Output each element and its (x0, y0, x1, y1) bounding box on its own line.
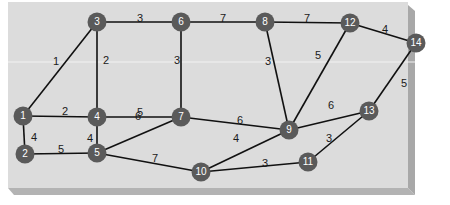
node-4: 4 (88, 108, 107, 127)
node-9: 9 (280, 121, 299, 140)
edge-weight-label: 2 (103, 54, 109, 66)
node-label: 8 (262, 16, 268, 27)
node-5: 5 (88, 144, 107, 163)
node-10: 10 (192, 163, 211, 182)
node-3: 3 (88, 13, 107, 32)
edge-weight-label: 3 (265, 55, 271, 67)
node-1: 1 (14, 107, 33, 126)
node-label: 3 (94, 16, 100, 27)
edge-weight-label: 5 (401, 77, 407, 89)
edge-weight-label: 7 (304, 12, 310, 24)
node-14: 14 (407, 34, 426, 53)
node-label: 7 (178, 111, 184, 122)
node-11: 11 (299, 153, 318, 172)
node-label: 12 (344, 17, 356, 28)
node-label: 9 (286, 124, 292, 135)
edge-weight-label: 4 (87, 132, 93, 144)
node-label: 6 (178, 16, 184, 27)
node-label: 11 (303, 156, 314, 167)
node-label: 5 (94, 147, 100, 158)
edge-weight-label: 4 (233, 132, 239, 144)
edge-weight-label: 7 (152, 152, 158, 164)
edge-weight-label: 7 (220, 12, 226, 24)
node-label: 1 (20, 110, 26, 121)
edge-weight-label: 5 (58, 143, 64, 155)
node-label: 2 (22, 148, 28, 159)
edge-weight-label: 3 (137, 12, 143, 24)
edge-weight-label: 1 (53, 55, 59, 67)
edge-weight-label: 3 (262, 157, 268, 169)
panel-right-bevel (408, 5, 415, 195)
edge-weight-label: 3 (326, 132, 332, 144)
edge-weight-label: 4 (382, 23, 388, 35)
edge-weight-label: 6 (328, 99, 334, 111)
node-label: 13 (363, 105, 375, 116)
node-13: 13 (360, 102, 379, 121)
edge-1-4 (23, 116, 97, 117)
edge-weight-label: 5 (315, 49, 321, 61)
node-label: 10 (195, 166, 207, 177)
node-6: 6 (172, 13, 191, 32)
node-12: 12 (341, 14, 360, 33)
node-label: 4 (94, 111, 100, 122)
node-8: 8 (256, 13, 275, 32)
node-7: 7 (172, 108, 191, 127)
edge-weight-label: 3 (174, 54, 180, 66)
edge-weight-label: 2 (62, 105, 68, 117)
panel-bottom-bevel (8, 188, 415, 195)
node-2: 2 (16, 145, 35, 164)
edge-weight-label: 6 (237, 114, 243, 126)
node-label: 14 (410, 37, 422, 48)
edge-weight-label: 6 (135, 110, 141, 122)
graph-diagram: 1243254567736735643345 12345678910111213… (0, 0, 450, 205)
edge-weight-label: 4 (31, 131, 37, 143)
